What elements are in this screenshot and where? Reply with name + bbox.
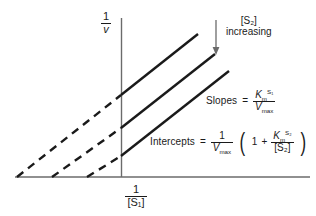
data-line-2-solid — [121, 54, 215, 128]
x-axis-label: 1 [S₁] — [105, 184, 167, 209]
intercepts-vmax-subscript: max — [219, 148, 231, 155]
slopes-denominator: Vmax — [253, 102, 275, 113]
s2-increasing-arrow-icon — [213, 20, 220, 55]
x-axis-label-denominator: [S₁] — [125, 197, 146, 209]
y-axis-label-numerator: 1 — [101, 11, 111, 24]
slopes-vmax-subscript: max — [262, 107, 274, 114]
x-axis-label-numerator: 1 — [125, 184, 146, 197]
lineweaver-burk-figure: 1 v 1 [S₁] [S₂] increasing Slopes = KmS₁… — [0, 0, 316, 216]
intercepts-parenthetical-group: 1 + KmS₂ [S₂] — [252, 131, 294, 154]
intercepts-label: Intercepts — [150, 137, 195, 148]
intercepts-km-superscript: S₂ — [285, 129, 292, 136]
slopes-equals-sign: = — [242, 96, 248, 107]
intercepts-km-base: K — [273, 130, 280, 141]
intercepts-equals-sign: = — [200, 137, 206, 148]
intercepts-first-denominator: Vmax — [211, 143, 233, 154]
slopes-km-subscript: m — [262, 95, 267, 102]
open-parenthesis: ( — [240, 131, 246, 153]
s2-increasing-note-line2: increasing — [226, 27, 272, 38]
y-axis-label: 1 v — [101, 11, 111, 36]
intercepts-second-fraction: KmS₂ [S₂] — [271, 131, 293, 154]
y-axis-label-denominator: v — [101, 24, 111, 36]
slopes-vmax-base: V — [255, 101, 262, 112]
slopes-km-superscript: S₁ — [267, 88, 273, 95]
slopes-fraction: KmS₁ Vmax — [253, 90, 275, 113]
intercepts-second-denominator: [S₂] — [271, 143, 293, 154]
intercepts-first-fraction: 1 Vmax — [211, 131, 233, 154]
close-parenthesis: ) — [300, 131, 306, 153]
intercepts-one: 1 — [252, 137, 258, 148]
intercepts-equation: Intercepts = 1 Vmax ( 1 + KmS₂ [S₂] ) — [150, 131, 307, 154]
s2-increasing-note: [S₂] increasing — [226, 16, 272, 37]
intercepts-plus-sign: + — [261, 137, 267, 148]
s2-increasing-note-line1: [S₂] — [226, 16, 272, 27]
slopes-label: Slopes — [206, 96, 237, 107]
data-line-2-dashed — [52, 128, 121, 177]
data-line-3-dashed — [87, 156, 121, 177]
data-line-1-solid — [121, 34, 198, 95]
slopes-km-base: K — [255, 89, 262, 100]
slopes-equation: Slopes = KmS₁ Vmax — [206, 90, 275, 113]
y-axis-label-fraction: 1 v — [101, 11, 111, 36]
x-axis-label-fraction: 1 [S₁] — [125, 184, 146, 209]
